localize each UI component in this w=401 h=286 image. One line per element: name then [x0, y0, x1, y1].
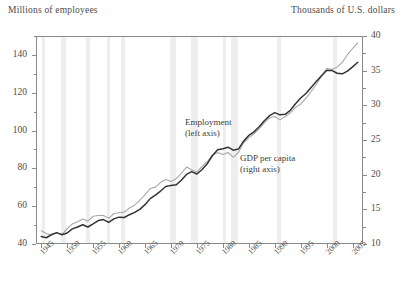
right-minor-tick-mark [363, 88, 366, 89]
left-tick-mark [32, 55, 36, 56]
left-tick-mark [32, 131, 36, 132]
left-tick-mark [32, 206, 36, 207]
left-minor-tick-mark [34, 225, 37, 226]
left-minor-tick-mark [34, 36, 37, 37]
right-tick-mark [363, 71, 367, 72]
left-tick-label: 40 [0, 238, 27, 248]
left-minor-tick-mark [34, 149, 37, 150]
left-tick-mark [32, 93, 36, 94]
left-minor-tick-mark [34, 112, 37, 113]
right-tick-mark [363, 175, 367, 176]
employment-line [41, 62, 358, 237]
gdp-per-capita-line [41, 43, 358, 235]
right-minor-tick-mark [363, 192, 366, 193]
right-tick-label: 35 [371, 65, 381, 75]
right-tick-label: 15 [371, 203, 381, 213]
annotation-employment-line2: (left axis) [185, 128, 232, 139]
chart-container: Millions of employees Thousands of U.S. … [0, 0, 401, 286]
right-minor-tick-mark [363, 53, 366, 54]
right-tick-label: 40 [371, 30, 381, 40]
right-tick-label: 25 [371, 134, 381, 144]
right-minor-tick-mark [363, 157, 366, 158]
left-tick-mark [32, 244, 36, 245]
right-tick-mark [363, 36, 367, 37]
right-tick-mark [363, 140, 367, 141]
right-tick-label: 20 [371, 169, 381, 179]
right-axis-caption: Thousands of U.S. dollars [291, 5, 395, 15]
right-tick-mark [363, 209, 367, 210]
right-tick-mark [363, 105, 367, 106]
right-tick-label: 10 [371, 238, 381, 248]
left-axis-caption: Millions of employees [8, 5, 98, 15]
plot-area [36, 36, 363, 244]
left-tick-label: 80 [0, 162, 27, 172]
right-minor-tick-mark [363, 123, 366, 124]
annotation-gdp: GDP per capita (right axis) [240, 153, 295, 174]
left-tick-label: 100 [0, 125, 27, 135]
left-tick-mark [32, 168, 36, 169]
left-tick-label: 60 [0, 200, 27, 210]
right-minor-tick-mark [363, 227, 366, 228]
left-minor-tick-mark [34, 187, 37, 188]
annotation-employment: Employment (left axis) [185, 117, 232, 138]
right-tick-label: 30 [371, 99, 381, 109]
series-lines [36, 36, 363, 244]
annotation-employment-line1: Employment [185, 117, 232, 128]
left-tick-label: 140 [0, 49, 27, 59]
left-tick-label: 120 [0, 87, 27, 97]
left-minor-tick-mark [34, 74, 37, 75]
annotation-gdp-line1: GDP per capita [240, 153, 295, 164]
annotation-gdp-line2: (right axis) [240, 164, 295, 175]
